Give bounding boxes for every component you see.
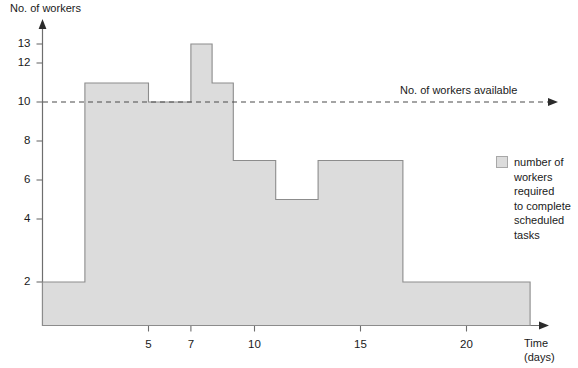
x-axis-title: Time (days) [524,337,555,365]
y-tick-label: 13 [5,37,31,49]
y-tick-label: 10 [5,95,31,107]
chart-canvas: No. of workers 1312108642 57101520 No. o… [0,0,578,368]
x-tick-label: 20 [452,338,482,350]
x-tick-label: 7 [176,338,206,350]
x-tick-label: 10 [240,338,270,350]
y-tick-label: 6 [5,173,31,185]
x-tick-label: 5 [134,338,164,350]
x-tick-label: 15 [346,338,376,350]
legend-swatch-required-workers [496,156,508,168]
workers-available-label: No. of workers available [400,84,517,96]
x-tick-marks [149,326,467,332]
legend-label-required-workers: number ofworkersrequiredto completesched… [514,155,578,242]
legend-label-line: scheduled [514,213,578,228]
legend-label-line: required [514,184,578,199]
plot-area [0,0,578,368]
legend-label-line: number of [514,155,578,170]
y-tick-label: 4 [5,212,31,224]
legend-label-line: workers [514,170,578,185]
y-tick-marks [37,44,43,282]
x-axis-title-line1: Time [524,337,555,351]
legend-label-line: tasks [514,228,578,243]
y-tick-label: 2 [5,275,31,287]
x-axis-title-line2: (days) [524,351,555,365]
y-tick-label: 12 [5,56,31,68]
y-axis [39,19,47,326]
legend-label-line: to complete [514,199,578,214]
y-tick-label: 8 [5,134,31,146]
